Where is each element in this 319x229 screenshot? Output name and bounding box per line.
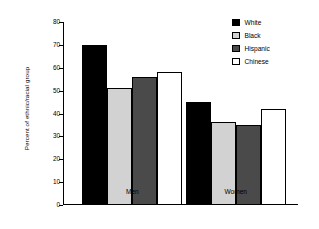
legend: WhiteBlackHispanicChinese (232, 16, 270, 68)
legend-swatch-icon (232, 19, 240, 27)
legend-item-label: Chinese (245, 58, 269, 66)
bar (186, 102, 211, 205)
x-axis-group-label: Men (126, 188, 139, 195)
y-tick-label: 10 (53, 178, 60, 186)
legend-swatch-icon (232, 45, 240, 53)
y-axis-title: Percent of ethnic/racial group (23, 34, 30, 184)
bar (82, 45, 107, 205)
y-tick-label: 50 (53, 87, 60, 95)
y-tick-label: 80 (53, 18, 60, 26)
legend-item-label: White (245, 19, 262, 27)
legend-item: Hispanic (232, 42, 270, 55)
legend-item: White (232, 16, 270, 29)
y-tick-label: 40 (53, 110, 60, 118)
y-tick-label: 70 (53, 41, 60, 49)
y-tick-label: 30 (53, 132, 60, 140)
bar (157, 72, 182, 205)
x-axis-group-label: Women (224, 188, 247, 195)
y-tick-label: 0 (56, 201, 60, 209)
legend-item-label: Black (245, 32, 261, 40)
y-tick-label: 60 (53, 64, 60, 72)
legend-swatch-icon (232, 32, 240, 40)
legend-item: Chinese (232, 55, 270, 68)
bar (132, 77, 157, 205)
legend-item-label: Hispanic (245, 45, 270, 53)
bar-chart: Percent of ethnic/racial group 010203040… (0, 0, 319, 229)
legend-swatch-icon (232, 58, 240, 66)
legend-item: Black (232, 29, 270, 42)
y-tick-label: 20 (53, 155, 60, 163)
bar (261, 109, 286, 205)
